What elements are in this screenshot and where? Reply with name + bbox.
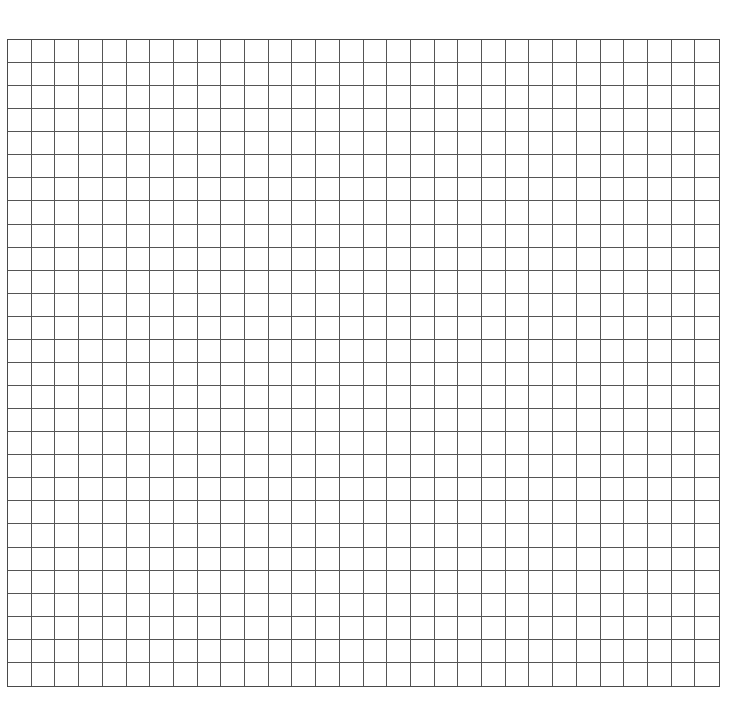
grid-cell (435, 617, 459, 640)
grid-cell (672, 109, 696, 132)
grid-cell (435, 86, 459, 109)
grid-cell (695, 317, 719, 340)
grid-cell (577, 501, 601, 524)
grid-cell (292, 86, 316, 109)
grid-cell (458, 40, 482, 63)
grid-cell (198, 317, 222, 340)
grid-cell (364, 548, 388, 571)
grid-cell (32, 86, 56, 109)
grid-cell (529, 317, 553, 340)
grid-cell (269, 294, 293, 317)
grid-cell (577, 386, 601, 409)
grid-cell (364, 63, 388, 86)
grid-cell (695, 201, 719, 224)
grid-cell (174, 432, 198, 455)
grid-cell (506, 340, 530, 363)
grid-cell (174, 155, 198, 178)
grid-cell (672, 225, 696, 248)
grid-cell (269, 478, 293, 501)
grid-cell (601, 248, 625, 271)
grid-cell (32, 201, 56, 224)
grid-cell (624, 86, 648, 109)
grid-cell (672, 340, 696, 363)
grid-cell (435, 225, 459, 248)
grid-cell (506, 640, 530, 663)
grid-cell (198, 363, 222, 386)
grid-cell (553, 248, 577, 271)
grid-cell (506, 617, 530, 640)
grid-cell (482, 640, 506, 663)
grid-cell (482, 617, 506, 640)
grid-cell (245, 132, 269, 155)
grid-cell (269, 248, 293, 271)
grid-cell (316, 501, 340, 524)
grid-cell (316, 271, 340, 294)
grid-cell (221, 663, 245, 686)
grid-cell (553, 571, 577, 594)
grid-cell (506, 86, 530, 109)
grid-cell (103, 271, 127, 294)
grid-cell (103, 594, 127, 617)
grid-cell (458, 109, 482, 132)
grid-cell (529, 271, 553, 294)
grid-cell (672, 248, 696, 271)
grid-cell (529, 640, 553, 663)
grid-cell (79, 455, 103, 478)
grid-cell (529, 386, 553, 409)
grid-cell (292, 340, 316, 363)
grid-cell (79, 663, 103, 686)
grid-cell (458, 640, 482, 663)
grid-cell (482, 363, 506, 386)
grid-cell (79, 478, 103, 501)
grid-cell (529, 40, 553, 63)
grid-cell (316, 478, 340, 501)
grid-cell (245, 386, 269, 409)
grid-cell (435, 386, 459, 409)
grid-cell (435, 663, 459, 686)
grid-cell (411, 501, 435, 524)
grid-cell (624, 617, 648, 640)
grid-cell (506, 432, 530, 455)
grid-cell (648, 640, 672, 663)
grid-cell (8, 63, 32, 86)
grid-cell (553, 548, 577, 571)
grid-cell (624, 109, 648, 132)
grid-cell (8, 524, 32, 547)
grid-cell (648, 63, 672, 86)
grid-cell (292, 594, 316, 617)
grid-cell (624, 478, 648, 501)
grid-cell (411, 363, 435, 386)
grid-cell (292, 663, 316, 686)
grid-cell (601, 640, 625, 663)
grid-cell (364, 571, 388, 594)
grid-cell (269, 225, 293, 248)
grid-cell (506, 40, 530, 63)
grid-cell (198, 40, 222, 63)
grid-cell (32, 155, 56, 178)
grid-cell (672, 548, 696, 571)
grid-cell (316, 155, 340, 178)
grid-cell (435, 63, 459, 86)
grid-cell (482, 86, 506, 109)
grid-cell (127, 432, 151, 455)
grid-cell (245, 340, 269, 363)
grid-cell (648, 409, 672, 432)
grid-cell (458, 455, 482, 478)
grid-cell (32, 617, 56, 640)
grid-cell (624, 294, 648, 317)
grid-cell (269, 132, 293, 155)
grid-cell (127, 132, 151, 155)
grid-cell (292, 386, 316, 409)
grid-cell (150, 225, 174, 248)
grid-cell (55, 409, 79, 432)
grid-cell (648, 178, 672, 201)
grid-cell (340, 594, 364, 617)
grid-cell (79, 340, 103, 363)
grid-cell (127, 248, 151, 271)
grid-cell (174, 594, 198, 617)
grid-cell (529, 340, 553, 363)
grid-cell (8, 409, 32, 432)
grid-cell (340, 201, 364, 224)
grid-cell (221, 201, 245, 224)
grid-cell (55, 524, 79, 547)
